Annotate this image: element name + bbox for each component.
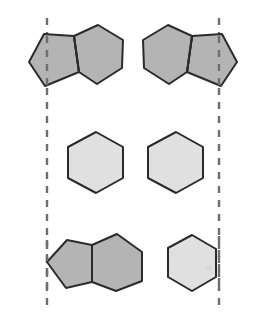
scan-artifact-speck	[206, 265, 212, 271]
figure-canvas	[0, 0, 259, 328]
ring-structure-diagram	[0, 0, 259, 328]
